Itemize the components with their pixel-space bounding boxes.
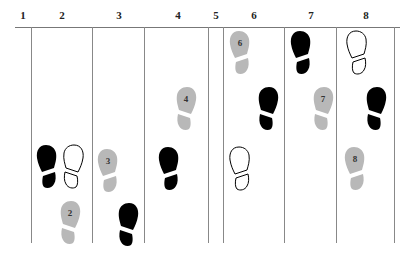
heel-shape — [235, 174, 248, 190]
footprint-icon — [58, 200, 82, 246]
step-number: 7 — [311, 94, 335, 104]
heel-shape — [367, 114, 380, 130]
footprint-guide-left: 3 — [96, 148, 120, 194]
column-divider — [284, 27, 285, 243]
footprint-icon — [116, 202, 140, 248]
footprint-icon — [228, 146, 252, 192]
footprint-guide-right: 2 — [58, 200, 82, 246]
step-number: 3 — [96, 156, 120, 166]
sole-shape — [37, 145, 56, 172]
footprint-guide-right: 7 — [311, 86, 335, 132]
step-number: 6 — [228, 38, 252, 48]
count-label: 4 — [175, 9, 181, 21]
heel-shape — [61, 228, 74, 244]
footprint-outline-left — [345, 30, 369, 76]
column-divider — [394, 27, 395, 243]
heel-shape — [103, 176, 116, 192]
column-divider — [92, 27, 93, 243]
sole-shape — [64, 145, 83, 172]
count-label: 3 — [116, 9, 122, 21]
footstep-diagram: 12345678 234678 — [0, 0, 412, 257]
heel-shape — [350, 174, 363, 190]
footprint-icon — [174, 86, 198, 132]
count-label: 6 — [251, 9, 257, 21]
footprint-filled-right — [364, 86, 388, 132]
step-number: 8 — [343, 154, 367, 164]
column-divider — [31, 27, 32, 243]
footprint-filled-left — [157, 146, 181, 192]
footprint-icon — [61, 144, 85, 190]
step-number: 4 — [174, 94, 198, 104]
heel-shape — [296, 58, 309, 74]
heel-shape — [177, 114, 190, 130]
heel-shape — [314, 114, 327, 130]
heel-shape — [235, 58, 248, 74]
column-divider — [223, 27, 224, 243]
step-number: 2 — [58, 208, 82, 218]
footprint-filled-left — [35, 144, 59, 190]
footprint-icon — [311, 86, 335, 132]
heel-shape — [259, 114, 272, 130]
sole-shape — [291, 31, 310, 58]
footprint-outline-left — [228, 146, 252, 192]
footprint-icon — [157, 146, 181, 192]
sole-shape — [367, 87, 386, 114]
heel-shape — [119, 230, 132, 246]
heel-shape — [42, 172, 55, 188]
count-label: 2 — [59, 9, 65, 21]
footprint-guide-left: 8 — [343, 146, 367, 192]
footprint-filled-left — [289, 30, 313, 76]
sole-shape — [230, 147, 249, 174]
footprint-icon — [96, 148, 120, 194]
count-label: 7 — [308, 9, 314, 21]
column-divider — [144, 27, 145, 243]
footprint-guide-right: 4 — [174, 86, 198, 132]
footprint-icon — [364, 86, 388, 132]
footprint-icon — [256, 86, 280, 132]
footprint-icon — [228, 30, 252, 76]
column-divider — [336, 27, 337, 243]
count-label: 1 — [20, 9, 26, 21]
sole-shape — [259, 87, 278, 114]
sole-shape — [159, 147, 178, 174]
heel-shape — [164, 174, 177, 190]
footprint-icon — [343, 146, 367, 192]
footprint-filled-right — [116, 202, 140, 248]
count-label: 8 — [363, 9, 369, 21]
footprint-filled-right — [256, 86, 280, 132]
count-label: 5 — [213, 9, 219, 21]
footprint-icon — [35, 144, 59, 190]
footprint-icon — [345, 30, 369, 76]
sole-shape — [119, 203, 138, 230]
heel-shape — [64, 172, 77, 188]
footprint-guide-left: 6 — [228, 30, 252, 76]
column-divider — [208, 27, 209, 243]
sole-shape — [347, 31, 366, 58]
footprint-outline-right — [61, 144, 85, 190]
footprint-icon — [289, 30, 313, 76]
heel-shape — [352, 58, 365, 74]
